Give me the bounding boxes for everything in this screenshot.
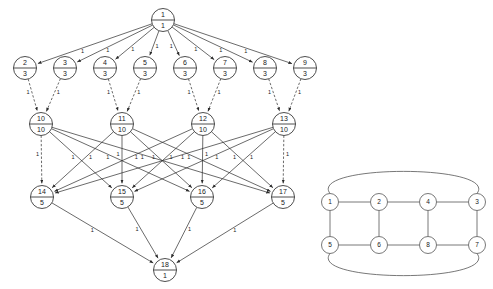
node-id-label: 16: [198, 188, 206, 195]
graph-edge: [77, 25, 152, 62]
node-value-label: 10: [280, 126, 288, 133]
node-id-label: 17: [279, 188, 287, 195]
edge-label: 1: [286, 151, 289, 157]
node-id-label: 13: [280, 115, 288, 122]
graph-edge: [55, 127, 273, 193]
node-value-label: 10: [118, 126, 126, 133]
node-id-label: 5: [143, 59, 147, 66]
graph-node[interactable]: 6: [371, 237, 388, 254]
graph-node[interactable]: 1310: [273, 113, 296, 136]
graph-node[interactable]: 1110: [111, 113, 134, 136]
graph-edge: [38, 24, 152, 64]
graph-node[interactable]: 145: [31, 186, 54, 209]
graph-edge: [202, 135, 203, 183]
graph-node[interactable]: 83: [254, 57, 277, 80]
edge-label: 1: [244, 48, 247, 54]
edge-label: 1: [152, 154, 155, 160]
graph-node[interactable]: 8: [420, 237, 437, 254]
graph-node[interactable]: 4: [420, 194, 437, 211]
node-id-label: 7: [223, 59, 227, 66]
edge-label: 1: [141, 154, 144, 160]
edge-label: 1: [131, 46, 134, 52]
graph-edge: [132, 129, 270, 192]
edge-label: 1: [233, 227, 236, 233]
node-id-label: 3: [475, 198, 479, 205]
node-value-label: 3: [63, 70, 67, 77]
graph-node[interactable]: 181: [154, 259, 177, 282]
node-id-label: 11: [118, 115, 125, 122]
edge-label: 1: [215, 154, 218, 160]
edge-label: 1: [27, 89, 30, 95]
graph-edge: [52, 203, 153, 263]
edge-label: 1: [91, 227, 94, 233]
graph-node[interactable]: 2: [371, 194, 388, 211]
node-id-label: 2: [23, 59, 27, 66]
edge-label: 1: [181, 154, 184, 160]
diagram-canvas: 111111111111111111111111111111111111 112…: [0, 0, 493, 289]
node-value-label: 3: [103, 70, 107, 77]
edge-label: 1: [170, 43, 173, 49]
graph-node[interactable]: 175: [272, 186, 295, 209]
node-value-label: 5: [200, 199, 204, 206]
graph-edge: [172, 27, 214, 60]
graph-edge: [116, 27, 155, 59]
graph-node[interactable]: 53: [134, 57, 157, 80]
node-id-label: 8: [263, 59, 267, 66]
edge-label: 1: [137, 89, 140, 95]
graph-edge: [177, 203, 274, 263]
graph-edge: [52, 127, 270, 193]
graph-node[interactable]: 73: [214, 57, 237, 80]
node-id-label: 12: [199, 115, 207, 122]
graph-node[interactable]: 93: [294, 57, 317, 80]
right-graph-nodes: 12435687: [322, 194, 486, 254]
node-id-label: 7: [475, 241, 479, 248]
graph-edge: [41, 135, 42, 183]
node-id-label: 6: [377, 241, 381, 248]
edge-label: 1: [194, 46, 197, 52]
edge-label: 1: [268, 89, 271, 95]
graph-node[interactable]: 7: [469, 237, 486, 254]
edge-label: 1: [188, 226, 191, 232]
node-id-label: 10: [37, 115, 45, 122]
edge-label: 1: [219, 47, 222, 53]
graph-node[interactable]: 3: [469, 194, 486, 211]
edge-label: 1: [218, 89, 221, 95]
graph-node[interactable]: 63: [174, 57, 197, 80]
node-id-label: 1: [328, 198, 332, 205]
node-value-label: 10: [37, 126, 45, 133]
graph-edge: [54, 129, 192, 192]
graph-node[interactable]: 33: [54, 57, 77, 80]
edge-label: 1: [71, 154, 74, 160]
graph-node[interactable]: 1: [322, 194, 339, 211]
graph-node[interactable]: 5: [322, 237, 339, 254]
node-id-label: 8: [426, 241, 430, 248]
graph-node[interactable]: 23: [14, 57, 37, 80]
graph-node[interactable]: 155: [111, 186, 134, 209]
edge-label: 1: [136, 226, 139, 232]
edge-label: 1: [169, 154, 172, 160]
edge-label: 1: [116, 151, 119, 157]
node-value-label: 5: [281, 199, 285, 206]
graph-node[interactable]: 165: [191, 186, 214, 209]
node-value-label: 3: [303, 70, 307, 77]
edge-label: 1: [106, 47, 109, 53]
graph-node[interactable]: 1210: [192, 113, 215, 136]
node-value-label: 3: [143, 70, 147, 77]
node-value-label: 5: [40, 199, 44, 206]
node-id-label: 14: [38, 188, 46, 195]
graph-edge: [134, 129, 273, 192]
graph-node[interactable]: 11: [152, 9, 175, 32]
graph-edge: [52, 132, 113, 188]
graph-node[interactable]: 1010: [30, 113, 53, 136]
left-graph-nodes: 1123334353637383931010111012101310145155…: [14, 9, 317, 282]
graph-edge: [211, 132, 272, 188]
graph-edge-curved: [328, 254, 479, 276]
edge-label: 1: [57, 89, 60, 95]
node-id-label: 4: [426, 198, 430, 205]
node-id-label: 6: [183, 59, 187, 66]
graph-node[interactable]: 43: [94, 57, 117, 80]
edge-label: 1: [233, 154, 236, 160]
node-id-label: 1: [161, 11, 165, 18]
node-id-label: 4: [103, 59, 107, 66]
graph-edge-curved: [328, 171, 479, 193]
